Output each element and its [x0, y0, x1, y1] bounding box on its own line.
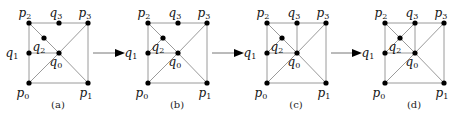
edge-q0-p1 — [297, 53, 326, 83]
edge-q2-q3 — [400, 23, 415, 38]
vertex-q1 — [382, 50, 387, 55]
vertex-label-p2: p2 — [19, 6, 32, 21]
transition-arrow-icon — [331, 49, 362, 57]
vertex-label-p3: p3 — [317, 6, 330, 21]
edge-q0-p1 — [415, 53, 444, 83]
panel-a: p0p1p2p3q0q1q2q3(a) — [6, 6, 93, 110]
vertex-label-q1: q1 — [244, 46, 257, 61]
vertex-label-q0: q0 — [50, 55, 63, 70]
edge-p2-q2 — [29, 23, 44, 38]
vertex-label-q1: q1 — [125, 46, 138, 61]
vertex-label-q0: q0 — [288, 55, 301, 70]
edge-q0-p1 — [59, 53, 88, 83]
vertex-label-p0: p0 — [255, 86, 268, 101]
edge-q0-p3 — [59, 23, 88, 53]
vertex-label-p0: p0 — [136, 86, 149, 101]
vertex-label-p2: p2 — [257, 6, 270, 21]
vertex-p0 — [264, 80, 269, 85]
vertex-label-q2: q2 — [389, 40, 402, 55]
edge-q2-q0 — [44, 38, 59, 53]
diagram-figure: p0p1p2p3q0q1q2q3(a)p0p1p2p3q0q1q2q3(b)p0… — [0, 0, 472, 119]
vertex-q2 — [279, 35, 284, 40]
vertex-q1 — [26, 50, 31, 55]
vertex-p1 — [323, 80, 328, 85]
vertex-q1 — [264, 50, 269, 55]
vertex-label-q2: q2 — [271, 40, 284, 55]
edge-q2-q0 — [400, 38, 415, 53]
vertex-label-q3: q3 — [406, 6, 419, 21]
edge-p2-q2 — [267, 23, 282, 38]
edge-p2-q2 — [385, 23, 400, 38]
edge-q2-q0 — [282, 38, 297, 53]
vertex-p2 — [382, 20, 387, 25]
vertex-p3 — [323, 20, 328, 25]
vertex-p1 — [85, 80, 90, 85]
vertex-label-q3: q3 — [50, 6, 63, 21]
vertex-label-q2: q2 — [152, 40, 165, 55]
edge-q0-p3 — [415, 23, 444, 53]
vertex-label-q3: q3 — [288, 6, 301, 21]
vertex-label-q1: q1 — [362, 46, 375, 61]
vertex-q2 — [397, 35, 402, 40]
edge-p2-q2 — [148, 23, 163, 38]
vertex-p0 — [382, 80, 387, 85]
vertex-p3 — [85, 20, 90, 25]
edge-q0-p1 — [178, 53, 207, 83]
vertex-label-p2: p2 — [375, 6, 388, 21]
vertex-q3 — [175, 20, 180, 25]
vertex-p3 — [204, 20, 209, 25]
edge-q0-p3 — [178, 23, 207, 53]
vertex-label-p1: p1 — [436, 86, 449, 101]
vertex-label-q1: q1 — [6, 46, 19, 61]
panel-b: p0p1p2p3q0q1q2q3(b) — [125, 6, 212, 110]
vertex-p1 — [204, 80, 209, 85]
panel-caption: (b) — [170, 99, 184, 110]
vertex-label-p0: p0 — [373, 86, 386, 101]
vertex-q3 — [56, 20, 61, 25]
vertex-p3 — [441, 20, 446, 25]
vertex-p0 — [26, 80, 31, 85]
vertex-p2 — [26, 20, 31, 25]
edge-q0-p3 — [297, 23, 326, 53]
vertex-label-p1: p1 — [80, 86, 93, 101]
vertex-label-p3: p3 — [198, 6, 211, 21]
vertex-q3 — [294, 20, 299, 25]
vertex-label-q2: q2 — [33, 40, 46, 55]
vertex-label-p3: p3 — [435, 6, 448, 21]
vertex-p2 — [264, 20, 269, 25]
vertex-p0 — [145, 80, 150, 85]
vertex-p1 — [441, 80, 446, 85]
vertex-label-p2: p2 — [138, 6, 151, 21]
vertex-label-q0: q0 — [169, 55, 182, 70]
panel-d: p0p1p2p3q0q1q2q3(d) — [362, 6, 449, 110]
vertex-label-q0: q0 — [406, 55, 419, 70]
vertex-label-p1: p1 — [318, 86, 331, 101]
vertex-label-q3: q3 — [169, 6, 182, 21]
vertex-q3 — [412, 20, 417, 25]
panel-caption: (d) — [407, 99, 421, 110]
panel-c: p0p1p2p3q0q1q2q3(c) — [244, 6, 331, 110]
panel-caption: (a) — [51, 99, 65, 110]
vertex-p2 — [145, 20, 150, 25]
transition-arrow-icon — [212, 49, 244, 57]
vertex-label-p1: p1 — [199, 86, 212, 101]
panel-caption: (c) — [289, 99, 303, 110]
edge-q2-q0 — [163, 38, 178, 53]
vertex-q2 — [160, 35, 165, 40]
vertex-q1 — [145, 50, 150, 55]
vertex-label-p3: p3 — [79, 6, 92, 21]
transition-arrow-icon — [93, 49, 125, 57]
vertex-q2 — [41, 35, 46, 40]
vertex-label-p0: p0 — [17, 86, 30, 101]
